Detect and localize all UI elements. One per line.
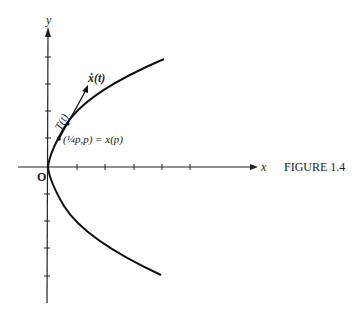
y-axis-arrow-icon <box>45 27 51 37</box>
point-label: (¼p,p) = x(p) <box>63 133 123 146</box>
point-marker <box>57 137 61 141</box>
figure-canvas: y x O ẋ(t) T(t) (¼p,p) = x(p) FIGURE 1.4 <box>0 0 361 324</box>
velocity-arrow-icon <box>82 85 88 93</box>
x-axis <box>18 164 258 170</box>
velocity-label: ẋ(t) <box>87 71 105 85</box>
y-axis-label: y <box>45 13 52 27</box>
x-axis-label: x <box>260 160 267 174</box>
origin-label: O <box>37 170 46 184</box>
figure-caption: FIGURE 1.4 <box>284 160 345 174</box>
x-axis-arrow-icon <box>250 164 258 170</box>
